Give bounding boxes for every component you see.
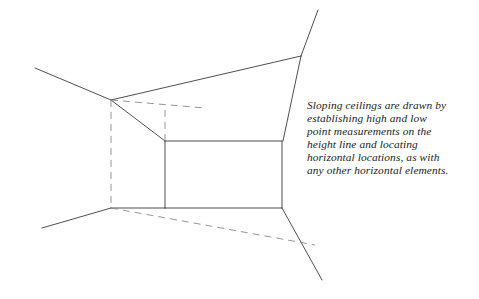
left-ceiling-edge — [35, 68, 111, 100]
right-ceiling-receding-line — [301, 10, 318, 56]
right-floor-receding-line — [282, 208, 322, 280]
hidden-ceiling-horizontal — [111, 100, 205, 108]
dashed-line-group — [111, 100, 315, 245]
right-wall-corner-line — [283, 56, 301, 141]
solid-line-group — [35, 10, 322, 280]
hidden-floor-receding — [111, 208, 315, 245]
caption-text: Sloping ceilings are drawn by establishi… — [307, 99, 449, 178]
diagram-page: Sloping ceilings are drawn by establishi… — [0, 0, 479, 299]
ceiling-slope-inner — [111, 100, 165, 141]
ceiling-slope-top-right — [111, 56, 301, 100]
left-floor-receding-line — [42, 208, 111, 228]
